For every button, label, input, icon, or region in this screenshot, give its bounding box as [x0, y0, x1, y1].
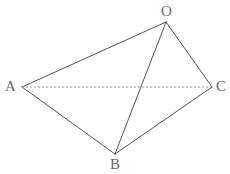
geometry-figure: OACB	[0, 0, 230, 174]
vertex-label-a: A	[5, 79, 16, 94]
vertex-label-b: B	[110, 157, 120, 172]
edge-bc	[115, 87, 212, 154]
edge-layer	[22, 22, 212, 154]
vertex-label-c: C	[216, 79, 226, 94]
vertex-label-o: O	[161, 4, 172, 19]
figure-canvas	[0, 0, 230, 174]
edge-oc	[166, 22, 212, 87]
edge-ab	[22, 87, 115, 154]
